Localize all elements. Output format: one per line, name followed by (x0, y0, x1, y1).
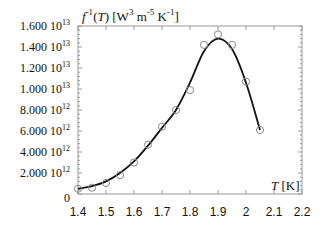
x-tick-label: 1.8 (182, 205, 199, 219)
x-tick-label: 1.4 (70, 205, 87, 219)
y-tick-label: 1.400 1013 (20, 39, 70, 54)
y-tick-label: 1.000 1013 (20, 81, 70, 96)
y-tick-label: 4.000 1012 (20, 144, 70, 159)
fit-curve (78, 39, 260, 189)
y-tick-label: 1.200 1013 (20, 60, 70, 75)
y-tick-label: 8.000 1012 (20, 102, 70, 117)
chart: 02.000 10124.000 10126.000 10128.000 101… (0, 0, 325, 228)
x-tick-label: 1.9 (210, 205, 227, 219)
data-point (214, 31, 221, 38)
x-tick-labels: 1.41.51.61.71.81.922.12.2 (70, 205, 311, 219)
x-tick-label: 2 (243, 205, 250, 219)
data-point (200, 41, 207, 48)
axis-ticks (78, 26, 302, 194)
x-tick-label: 1.5 (98, 205, 115, 219)
x-tick-label: 2.2 (294, 205, 311, 219)
y-tick-labels: 02.000 10124.000 10126.000 10128.000 101… (20, 18, 70, 205)
plot-frame (78, 26, 302, 194)
x-tick-label: 1.6 (126, 205, 143, 219)
y-tick-label: 2.000 1012 (20, 165, 70, 180)
x-tick-label: 1.7 (154, 205, 171, 219)
x-tick-label: 2.1 (266, 205, 283, 219)
data-point (186, 86, 193, 93)
y-axis-label: f-1(T) [W3 m-5 K-1] (82, 7, 179, 24)
plot-border (78, 26, 302, 194)
x-axis-label: T [K] (271, 178, 300, 193)
y-tick-label: 1.600 1013 (20, 18, 70, 33)
y-tick-label: 6.000 1012 (20, 123, 70, 138)
y-tick-label: 0 (64, 191, 70, 205)
data-point (88, 184, 95, 191)
